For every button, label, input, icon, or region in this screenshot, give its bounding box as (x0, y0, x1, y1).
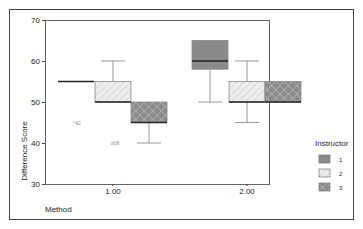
box-rect (229, 82, 265, 103)
x-axis-label: Method (45, 205, 72, 214)
box-1-2.00 (192, 41, 228, 103)
y-tick-label: 70 (31, 16, 40, 25)
y-tick-label: 40 (31, 139, 40, 148)
y-tick-label: 60 (31, 57, 40, 66)
legend-label-1: 1 (339, 157, 343, 163)
box-2-2.00 (229, 61, 265, 123)
outlier-label: o08 (111, 140, 120, 146)
box-3-2.00 (265, 82, 301, 103)
legend-label-2: 2 (339, 171, 343, 177)
y-tick-label: 50 (31, 98, 40, 107)
x-tick-label: 2.00 (239, 187, 255, 196)
legend-swatch-3 (319, 183, 330, 191)
legend-swatch-2 (319, 169, 330, 177)
legend-label-3: 3 (339, 185, 343, 191)
box-3-1.00 (131, 102, 167, 143)
x-tick-label: 1.00 (105, 187, 121, 196)
boxplot-chart: 30405060701.002.00 *42o08 123 Method Dif… (0, 0, 363, 229)
outer-frame (10, 10, 354, 220)
outlier-label: *42 (73, 120, 81, 126)
legend-title: Instructor (315, 139, 349, 148)
box-2-1.00 (95, 61, 131, 102)
y-axis-label: Difference Score (20, 121, 29, 181)
legend-swatch-1 (319, 155, 330, 163)
chart-container: 30405060701.002.00 *42o08 123 Method Dif… (0, 0, 363, 229)
box-rect (131, 102, 167, 123)
box-rect (95, 82, 131, 103)
box-rect (265, 82, 301, 103)
y-tick-label: 30 (31, 180, 40, 189)
box-rect (192, 41, 228, 70)
